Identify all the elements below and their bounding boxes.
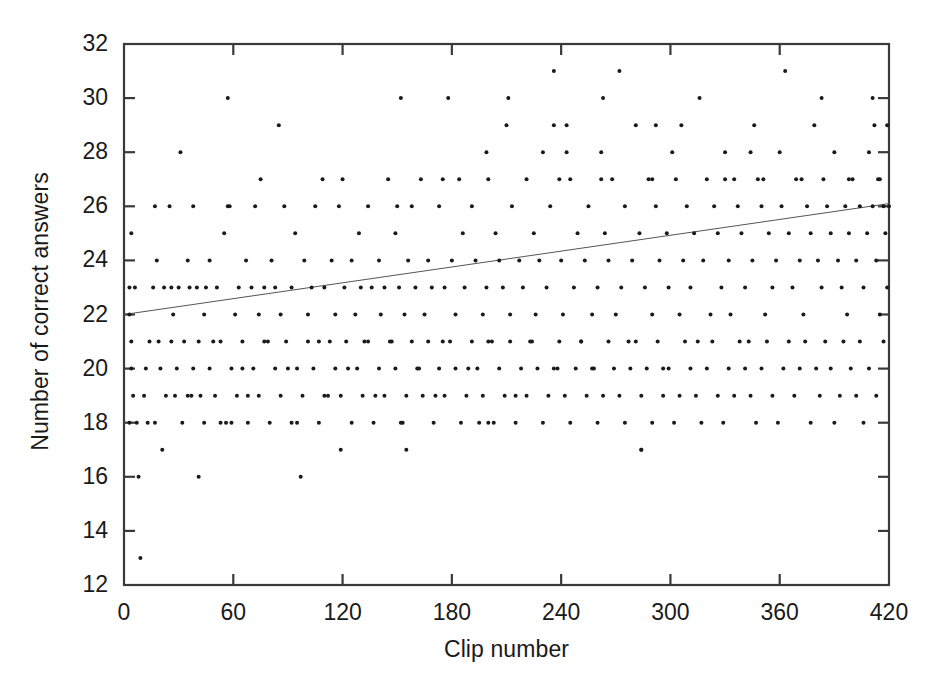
data-points <box>127 69 891 560</box>
y-tick-label: 22 <box>48 301 108 328</box>
y-tick-label: 12 <box>48 571 108 598</box>
x-tick-label: 240 <box>521 599 601 626</box>
x-tick-label: 420 <box>849 599 929 626</box>
y-tick-label: 32 <box>48 30 108 57</box>
y-tick-label: 16 <box>48 463 108 490</box>
x-tick-label: 300 <box>630 599 710 626</box>
y-tick-label: 24 <box>48 246 108 273</box>
x-tick-label: 60 <box>193 599 273 626</box>
y-tick-label: 14 <box>48 517 108 544</box>
y-tick-label: 20 <box>48 355 108 382</box>
x-axis-title: Clip number <box>124 636 889 663</box>
y-tick-label: 18 <box>48 409 108 436</box>
plot-canvas <box>0 0 943 686</box>
y-tick-label: 26 <box>48 192 108 219</box>
x-tick-label: 180 <box>412 599 492 626</box>
trendline <box>124 204 889 315</box>
x-tick-label: 120 <box>303 599 383 626</box>
scatter-plot-figure: Number of correct answers Clip number 12… <box>0 0 943 686</box>
y-tick-label: 30 <box>48 84 108 111</box>
y-tick-label: 28 <box>48 138 108 165</box>
x-tick-label: 360 <box>740 599 820 626</box>
x-tick-label: 0 <box>84 599 164 626</box>
